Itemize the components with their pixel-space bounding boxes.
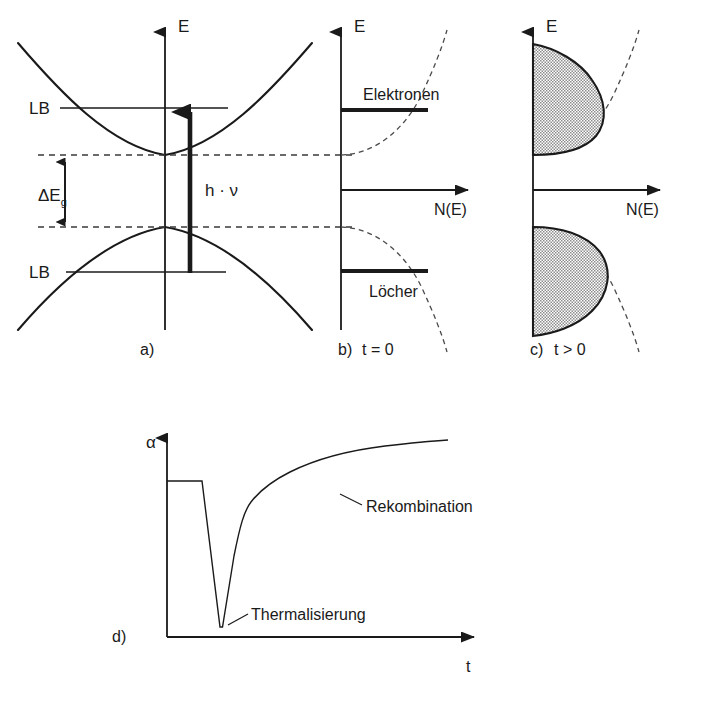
electrons-label: Elektronen (363, 86, 440, 103)
figure-canvas: E LB LB ΔEg h · ν a) E Elektronen Löcher… (0, 0, 704, 707)
thermalisation-leader-line (228, 614, 248, 625)
panel-d-alpha-axis-label: α (146, 433, 156, 452)
panel-c-energy-axis-label: E (546, 17, 557, 36)
panel-b-energy-axis-label: E (354, 17, 365, 36)
band-gap-label-main: ΔE (38, 186, 61, 205)
recombination-annotation: Rekombination (366, 498, 473, 515)
panel-b-caption: b) (338, 341, 352, 358)
figure-root: E LB LB ΔEg h · ν a) E Elektronen Löcher… (0, 0, 704, 707)
band-gap-label: ΔEg (38, 186, 67, 208)
conduction-band-label: LB (29, 99, 50, 118)
panel-d-caption: d) (112, 628, 126, 645)
holes-label: Löcher (369, 283, 419, 300)
panel-c-condition: t > 0 (554, 341, 586, 358)
panel-a-energy-axis-label: E (178, 17, 189, 36)
electron-thermal-distribution-fill (533, 44, 604, 155)
valence-band-label: LB (29, 263, 50, 282)
panel-a (18, 32, 352, 330)
panel-b-dos-axis-label: N(E) (434, 201, 467, 218)
panel-c-caption: c) (530, 341, 543, 358)
panel-b (341, 30, 468, 352)
hole-thermal-distribution-fill (533, 227, 608, 336)
absorption-trace (167, 440, 448, 627)
band-gap-label-subscript: g (61, 196, 67, 208)
panel-d-time-axis-label: t (466, 658, 471, 675)
panel-c (533, 30, 660, 352)
panel-a-caption: a) (140, 341, 154, 358)
panel-c-dos-axis-label: N(E) (626, 201, 659, 218)
panel-b-condition: t = 0 (362, 341, 394, 358)
thermalisation-annotation: Thermalisierung (251, 606, 366, 623)
recombination-leader-line (340, 494, 362, 505)
photon-energy-label: h · ν (205, 181, 238, 200)
